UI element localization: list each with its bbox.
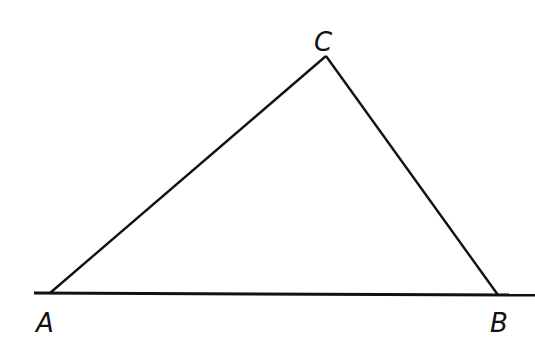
vertex-label-a: A bbox=[34, 308, 54, 338]
side-cb bbox=[326, 56, 498, 295]
vertex-label-b: B bbox=[490, 308, 508, 338]
side-ac bbox=[50, 56, 326, 293]
vertex-label-c: C bbox=[314, 27, 333, 57]
triangle-diagram: A B C bbox=[0, 0, 535, 344]
baseline-line bbox=[34, 293, 535, 295]
